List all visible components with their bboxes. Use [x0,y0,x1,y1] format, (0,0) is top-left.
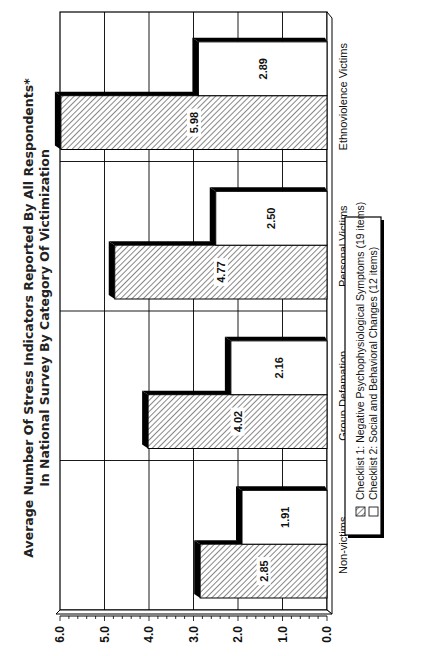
tick-label: 6.0 [53,626,67,643]
chart-title: Average Number Of Stress Indicators Repo… [21,78,52,558]
bar-value-label: 2.16 [273,357,285,378]
chart-title-line-2: In National Survey By Category Of Victim… [37,149,52,487]
legend-swatch-checklist-2 [369,507,378,516]
legend: Checklist 1: Negative Psychophysiologica… [345,202,384,538]
legend-label-checklist-2: Checklist 2: Social and Behavioral Chang… [367,247,379,500]
bar-checklist-1: 2.85 [194,540,327,598]
bar-checklist-2: 2.16 [225,337,327,395]
chart-canvas: Average Number Of Stress Indicators Repo… [0,0,430,656]
bar-value-label: 4.02 [232,411,244,432]
tick-label: 5.0 [98,626,112,643]
category-label: Ethnoviolence Victims [337,43,349,151]
tick-label: 0.0 [320,626,334,643]
bar-checklist-1: 5.98 [55,92,327,150]
tick-label: 2.0 [231,626,245,643]
bar-checklist-1: 4.77 [109,241,327,299]
bar-checklist-1: 4.02 [142,391,327,449]
chart-title-line-1: Average Number Of Stress Indicators Repo… [21,78,36,558]
bar-value-label: 2.50 [265,208,277,229]
bar-value-label: 2.85 [258,560,270,581]
legend-label-checklist-1: Checklist 1: Negative Psychophysiologica… [354,202,366,500]
tick-label: 3.0 [187,626,201,643]
bar-value-label: 2.89 [257,58,269,79]
tick-label: 4.0 [142,626,156,643]
bar-value-label: 1.91 [279,507,291,528]
bar-checklist-2: 2.50 [210,187,327,245]
bar-value-label: 4.77 [215,261,227,282]
value-axis: 0.01.02.03.04.05.06.0 [53,616,334,643]
legend-swatch-checklist-1 [356,507,365,516]
bar-checklist-2: 1.91 [236,486,327,544]
tick-label: 1.0 [276,626,290,643]
bar-checklist-2: 2.89 [192,38,327,96]
bar-value-label: 5.98 [188,112,200,133]
